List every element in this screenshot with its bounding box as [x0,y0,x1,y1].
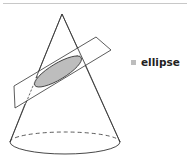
cone-left-side-lower [10,104,25,142]
legend-label-ellipse: ellipse [141,56,180,68]
cone-left-side-upper [44,14,62,58]
legend: ellipse [131,56,180,68]
cone-right-side-upper [62,14,79,51]
cone-base-front-edge [10,142,120,154]
legend-swatch-ellipse [131,60,136,65]
cone-base-back-edge [10,132,120,142]
cone-section-diagram [0,0,187,166]
cone-right-side-lower [86,66,120,142]
